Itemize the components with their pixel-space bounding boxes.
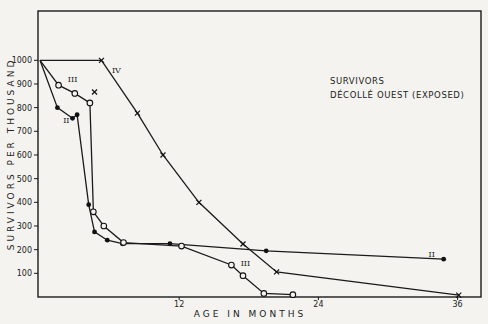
filled-circle-marker [70,116,75,121]
y-tick-label: 100 [17,269,32,278]
y-axis-title: SURVIVORS PER THOUSAND [6,58,16,251]
y-tick-label: 500 [17,175,32,184]
x-axis-ticks: 122436 [174,297,463,309]
open-circle-marker [72,91,78,97]
cross-marker [241,241,246,246]
filled-circle-marker [105,238,110,243]
y-tick-label: 200 [17,246,32,255]
annotation-line-2: DÉCOLLÉ OUEST (EXPOSED) [330,89,464,100]
open-circle-marker [240,273,246,279]
open-circle-marker [101,223,107,229]
open-circle-marker [290,292,296,298]
series-iii: IIIIII [40,60,296,297]
y-tick-label: 400 [17,198,32,207]
y-tick-label: 600 [17,151,32,160]
filled-circle-marker [55,105,60,110]
open-circle-marker [91,209,97,215]
y-tick-label: 700 [17,127,32,136]
filled-circle-marker [75,112,80,117]
y-tick-label: 800 [17,104,32,113]
curve-label: II [429,250,435,259]
series-line [40,60,293,294]
filled-circle-marker [86,202,91,207]
y-tick-label: 300 [17,222,32,231]
open-circle-marker [229,262,235,268]
cross-marker [135,111,140,116]
y-tick-label: 900 [17,80,32,89]
open-circle-marker [261,291,267,297]
filled-circle-marker [92,230,97,235]
curve-label: III [68,75,77,84]
survivorship-chart: 1002003004005006007008009001000 122436 S… [0,0,488,324]
x-tick-label: 24 [313,300,323,309]
open-circle-marker [179,243,185,249]
annotation-line-1: SURVIVORS [330,76,384,86]
filled-circle-marker [441,257,446,262]
curve-label: II [63,116,69,125]
open-circle-marker [87,100,93,106]
cross-marker [160,152,165,157]
x-tick-label: 12 [174,300,184,309]
cross-marker [92,90,97,95]
filled-circle-marker [264,248,269,253]
open-circle-marker [56,82,62,88]
x-axis-title: AGE IN MONTHS [194,309,306,319]
x-tick-label: 36 [453,300,463,309]
curve-label: IV [112,66,121,75]
open-circle-marker [121,240,127,246]
plot-frame [38,11,481,297]
cross-marker [196,200,201,205]
curve-label: III [241,259,250,268]
